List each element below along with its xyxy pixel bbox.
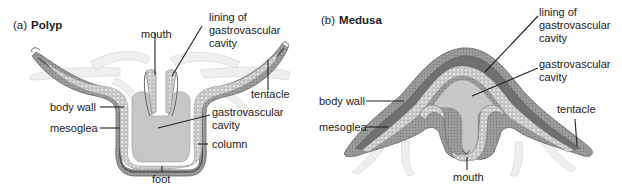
medusa-panel-name: Medusa (339, 14, 382, 26)
medusa-panel-tag: (b) (321, 14, 335, 26)
polyp-panel-tag: (a) (13, 19, 27, 31)
medusa-label-lining-1: lining of (539, 6, 577, 18)
illustration (0, 0, 622, 195)
polyp-panel-name: Polyp (31, 19, 62, 31)
medusa-label-mouth: mouth (453, 171, 484, 183)
polyp-label-body-wall: body wall (50, 101, 96, 113)
cnidarian-body-plans-figure: (a)Polyp mouth lining of gastrovascular … (0, 0, 622, 195)
polyp-label-column: column (212, 138, 247, 150)
polyp-label-mouth: mouth (141, 28, 172, 40)
medusa-label-lining-3: cavity (539, 32, 567, 44)
polyp-label-foot: foot (152, 173, 170, 185)
medusa-label-gv-cavity-1: gastrovascular (539, 58, 611, 70)
polyp-label-lining-1: lining of (209, 11, 247, 23)
polyp-label-mesoglea: mesoglea (50, 122, 98, 134)
medusa-panel-title: (b)Medusa (321, 14, 382, 26)
medusa-label-lining-2: gastrovascular (539, 19, 611, 31)
polyp-label-lining-3: cavity (209, 37, 237, 49)
polyp-label-gv-cavity-2: cavity (212, 119, 240, 131)
medusa-label-body-wall: body wall (319, 95, 365, 107)
polyp-label-tentacle: tentacle (251, 88, 290, 100)
medusa-label-gv-cavity-2: cavity (539, 71, 567, 83)
medusa-label-tentacle: tentacle (557, 103, 596, 115)
polyp-label-gv-cavity-1: gastrovascular (212, 106, 284, 118)
polyp-panel-title: (a)Polyp (13, 19, 62, 31)
medusa-label-mesoglea: mesoglea (319, 121, 367, 133)
polyp-label-lining-2: gastrovascular (209, 24, 281, 36)
